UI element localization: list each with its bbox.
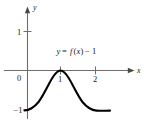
graph-canvas: y x 0 1 −1 1 2 y = f ( x ) − 1: [0, 0, 144, 121]
equation-close-paren: ): [81, 46, 84, 56]
math-figure: y x 0 1 −1 1 2 y = f ( x ) − 1: [0, 0, 144, 121]
origin-label: 0: [17, 73, 21, 83]
x-tick-label-1: 1: [58, 74, 62, 84]
y-axis-label: y: [32, 3, 37, 12]
equation-lhs: y: [56, 46, 61, 56]
equation-annotation: y = f ( x ) − 1: [56, 46, 97, 56]
y-tick-label-neg1: −1: [14, 105, 23, 115]
x-axis-arrow-icon: [128, 68, 135, 73]
y-tick-label-1: 1: [17, 27, 21, 37]
x-axis-label: x: [136, 66, 141, 75]
equation-constant: 1: [92, 46, 96, 56]
equation-equals-sign: =: [62, 46, 67, 56]
y-axis-arrow-icon: [25, 7, 30, 14]
x-tick-label-2: 2: [93, 74, 97, 84]
equation-minus-sign: −: [85, 46, 90, 56]
